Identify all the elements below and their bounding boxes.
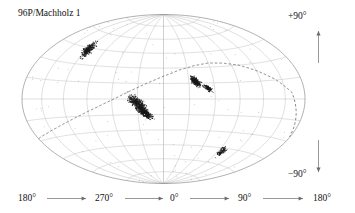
orbit-track — [39, 63, 297, 139]
longitude-tick-180-right: 180° — [313, 194, 331, 204]
longitude-tick-270: 270° — [95, 194, 113, 204]
hammer-projection-plot — [0, 0, 355, 213]
sky-map-figure: 96P/Machholz 1 +90° −90° 180° 270° 0° 90… — [0, 0, 355, 213]
page-title: 96P/Machholz 1 — [18, 9, 81, 19]
longitude-tick-180-left: 180° — [18, 194, 36, 204]
south-pole-label: −90° — [288, 170, 307, 180]
north-pole-label: +90° — [288, 12, 307, 22]
graticule — [22, 15, 305, 184]
longitude-tick-90: 90° — [238, 194, 251, 204]
radiant-points — [32, 21, 291, 182]
longitude-tick-0: 0° — [170, 194, 179, 204]
